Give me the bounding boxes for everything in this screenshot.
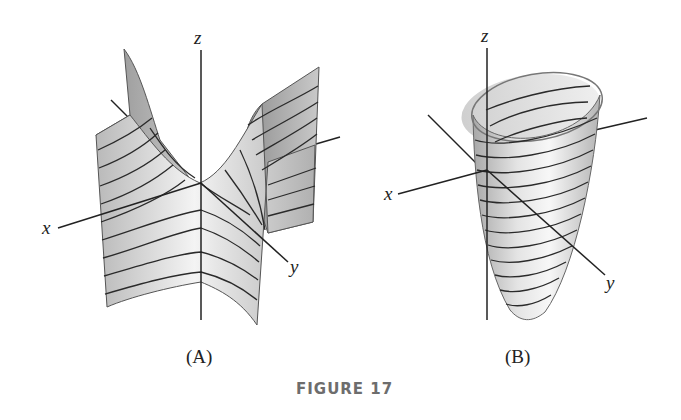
figure-caption: FIGURE 17: [296, 380, 393, 398]
x-axis-back: [595, 118, 647, 130]
panel-a-label: (A): [186, 346, 212, 368]
z-axis-label: z: [193, 27, 202, 48]
figure-17: z x y (A): [0, 0, 681, 420]
panel-b: z x y (B): [383, 25, 647, 368]
y-axis-back: [316, 137, 340, 144]
x-axis-label: x: [383, 183, 393, 204]
x-axis: [398, 170, 487, 194]
z-axis-label: z: [480, 25, 489, 46]
x-axis-label: x: [41, 217, 51, 238]
panel-b-label: (B): [505, 346, 530, 368]
x-axis-back: [111, 100, 128, 117]
y-axis-label: y: [604, 272, 615, 293]
y-axis-label: y: [288, 256, 299, 277]
panel-a: z x y (A): [41, 27, 340, 368]
